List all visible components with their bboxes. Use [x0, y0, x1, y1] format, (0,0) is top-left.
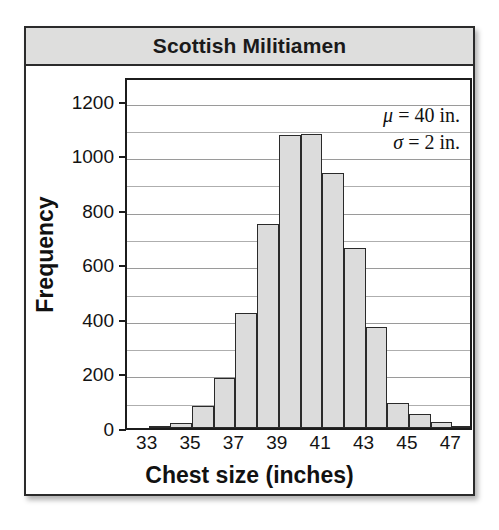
- x-tick-label-45: 45: [396, 432, 417, 454]
- page-title: Scottish Militiamen: [153, 34, 346, 58]
- bar-44: [387, 403, 409, 428]
- y-axis-tick-labels: 020040060080010001200: [26, 78, 120, 430]
- chart-title-bar: Scottish Militiamen: [26, 28, 473, 66]
- y-tick-label-400: 400: [82, 310, 114, 332]
- x-axis-tick-labels: 3335373941434547: [125, 432, 472, 460]
- y-tick-label-0: 0: [103, 419, 114, 441]
- x-tick-label-47: 47: [440, 432, 461, 454]
- bar-41: [322, 173, 344, 428]
- annotation-line-2: σ = 2 in.: [383, 129, 460, 156]
- y-tick-label-200: 200: [82, 364, 114, 386]
- x-tick-label-37: 37: [223, 432, 244, 454]
- figure-card: Scottish Militiamen Frequency 0200400600…: [24, 26, 475, 496]
- bar-36: [214, 378, 236, 428]
- x-axis-title: Chest size (inches): [26, 462, 473, 489]
- bar-37: [235, 313, 257, 428]
- bar-43: [366, 327, 388, 428]
- bar-38: [257, 224, 279, 428]
- bar-40: [301, 134, 323, 428]
- y-tick-label-1000: 1000: [72, 146, 114, 168]
- bar-34: [170, 423, 192, 428]
- bar-39: [279, 135, 301, 428]
- chart-body: Frequency 020040060080010001200 μ = 40 i…: [26, 66, 473, 498]
- annotation-symbol-2: σ: [393, 131, 403, 153]
- bar-33: [149, 426, 171, 428]
- annotation-symbol-1: μ: [383, 104, 393, 126]
- bar-47: [452, 426, 472, 428]
- y-tick-label-600: 600: [82, 255, 114, 277]
- stats-annotation: μ = 40 in.σ = 2 in.: [383, 102, 460, 156]
- y-tick-label-1200: 1200: [72, 92, 114, 114]
- x-tick-label-41: 41: [310, 432, 331, 454]
- bar-42: [344, 248, 366, 428]
- annotation-text-2: = 2 in.: [403, 131, 460, 153]
- bar-45: [409, 414, 431, 428]
- x-tick-label-43: 43: [353, 432, 374, 454]
- bar-35: [192, 406, 214, 428]
- x-tick-label-33: 33: [136, 432, 157, 454]
- bar-46: [431, 422, 453, 428]
- x-tick-label-35: 35: [179, 432, 200, 454]
- y-tick-label-800: 800: [82, 201, 114, 223]
- x-tick-label-39: 39: [266, 432, 287, 454]
- annotation-text-1: = 40 in.: [393, 104, 460, 126]
- annotation-line-1: μ = 40 in.: [383, 102, 460, 129]
- plot-area: μ = 40 in.σ = 2 in.: [125, 78, 472, 430]
